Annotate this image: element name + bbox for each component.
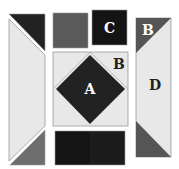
top-gray-square [53,13,88,48]
center-block: A B [53,52,128,126]
label-b-center: B [113,56,125,72]
label-a: A [84,81,97,97]
bottom-black-rect-left [55,131,90,165]
label-c: C [104,20,115,36]
bottom-block [55,131,125,165]
left-column [9,14,45,165]
right-column: B D [136,18,171,157]
label-d: D [149,77,161,93]
label-b-right: B [142,22,154,38]
quilt-diagram: C A B B D [0,0,179,169]
top-c-block: C [92,10,127,45]
bottom-black-rect-right [90,131,125,165]
